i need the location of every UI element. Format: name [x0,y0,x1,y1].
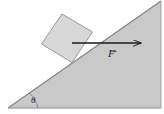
angle-theta-label: θ [31,96,35,105]
vector-arrow-accent: → [108,44,117,48]
force-label: → F [108,48,115,59]
physics-diagram-figure: θ → F [0,0,164,114]
diagram-canvas [0,0,164,114]
